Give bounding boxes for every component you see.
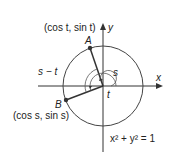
point-a-label: A [85,36,92,46]
point-b-coords: (cos s, sin s) [13,111,69,121]
angle-s-minus-t-label: s − t [38,67,57,77]
circle-equation: x² + y² = 1 [110,134,155,144]
x-axis [38,83,163,89]
point-b-label: B [55,100,62,110]
point-b-dot [64,98,68,102]
y-axis-label: y [108,23,113,33]
x-axis-label: x [156,73,161,83]
point-a-dot [88,46,92,50]
angle-t-label: t [107,90,110,100]
angle-s-label: s [113,68,118,78]
point-a-coords: (cos t, sin t) [44,23,96,33]
radius-b [66,86,103,100]
